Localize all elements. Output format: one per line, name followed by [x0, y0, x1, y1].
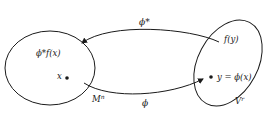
pullback-arrow: [82, 29, 219, 43]
manifold-symbol: M: [91, 94, 101, 104]
codomain-space-label: Vr: [235, 95, 245, 107]
point-x-dot: [65, 76, 69, 80]
domain-manifold-label: Mn: [91, 93, 105, 105]
point-y-label: y = ϕ(x): [216, 72, 252, 82]
pullback-function-label: ϕ*f(x): [36, 48, 61, 58]
manifold-dimension: n: [101, 93, 105, 100]
point-x-label: x: [57, 71, 62, 81]
codomain-space-ellipse: [180, 8, 276, 117]
mapping-diagram: ϕ* ϕ ϕ*f(x) x Mn f(y) y = ϕ(x) Vr: [0, 0, 277, 117]
domain-manifold-ellipse: [5, 31, 95, 105]
space-dimension: r: [241, 95, 245, 102]
pullback-label: ϕ*: [139, 17, 150, 27]
function-f-y-label: f(y): [223, 34, 239, 44]
forward-map-label: ϕ: [142, 98, 148, 108]
point-y-dot: [209, 75, 213, 79]
